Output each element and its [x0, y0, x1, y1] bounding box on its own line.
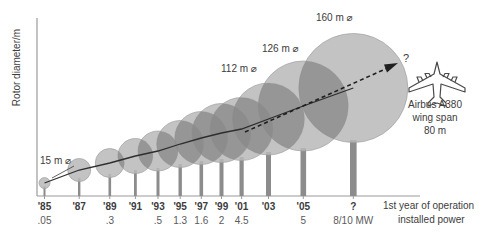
airbus-legend: Airbus A380 wing span 80 m [383, 98, 487, 137]
tower [266, 152, 271, 196]
tower [179, 164, 182, 196]
tick-power-1985: .05 [22, 215, 68, 226]
rotor-label-15m: 15 m ⌀ [40, 155, 71, 166]
x-axis-caption-line2: installed power [398, 214, 465, 225]
tower [301, 148, 307, 196]
airbus-legend-line3: 80 m [383, 124, 487, 137]
rotor-label-126m: 126 m ⌀ [262, 43, 299, 54]
tick-power-2005: 5 [280, 215, 326, 226]
airbus-legend-line2: wing span [383, 111, 487, 124]
y-axis-label: Rotor diameter/m [11, 8, 22, 128]
tower [157, 168, 160, 196]
tick-power-future: 8/10 MW [330, 215, 376, 226]
tower [350, 140, 357, 196]
x-axis-caption-line1: 1st year of operation [383, 200, 474, 211]
tower [220, 159, 224, 196]
tower [200, 161, 204, 196]
tick-year-future: ? [333, 201, 373, 212]
tick-power-1989: .3 [87, 215, 133, 226]
airbus-legend-line1: Airbus A380 [383, 98, 487, 111]
future-question-mark: ? [403, 52, 409, 64]
tick-power-2001: 4.5 [219, 215, 265, 226]
tick-year-2005: '05 [283, 201, 323, 212]
rotor-label-112m: 112 m ⌀ [221, 63, 257, 74]
rotor-label-160m: 160 m ⌀ [316, 12, 353, 23]
wind-turbine-growth-chart: Rotor diameter/m 15 m ⌀ 112 m ⌀ 126 m ⌀ … [0, 0, 491, 240]
tower [134, 170, 137, 196]
tower [240, 157, 244, 196]
